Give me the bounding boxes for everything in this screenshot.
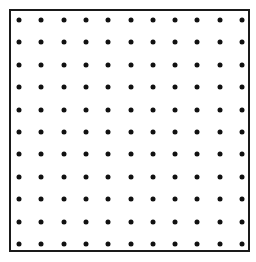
- grid-dot: [195, 18, 200, 23]
- grid-dot: [217, 62, 222, 67]
- grid-dot: [240, 174, 245, 179]
- grid-dot: [150, 107, 155, 112]
- grid-dot: [83, 174, 88, 179]
- grid-dot: [173, 242, 178, 247]
- grid-dot: [61, 197, 66, 202]
- grid-dot: [195, 219, 200, 224]
- grid-dot: [150, 62, 155, 67]
- grid-dot: [128, 174, 133, 179]
- grid-dot: [17, 18, 22, 23]
- grid-dot: [106, 40, 111, 45]
- grid-dot: [217, 130, 222, 135]
- grid-dot: [150, 18, 155, 23]
- grid-dot: [195, 85, 200, 90]
- grid-dot: [195, 130, 200, 135]
- grid-dot: [17, 62, 22, 67]
- grid-dot: [195, 174, 200, 179]
- grid-dot: [39, 40, 44, 45]
- grid-dot: [17, 219, 22, 224]
- grid-dot: [128, 18, 133, 23]
- grid-dot: [17, 174, 22, 179]
- grid-dot: [106, 107, 111, 112]
- grid-dot: [195, 242, 200, 247]
- grid-dot: [150, 197, 155, 202]
- grid-dot: [39, 18, 44, 23]
- grid-dot: [195, 40, 200, 45]
- grid-dot: [39, 219, 44, 224]
- grid-dot: [39, 62, 44, 67]
- grid-dot: [217, 40, 222, 45]
- grid-dot: [17, 107, 22, 112]
- grid-dot: [150, 219, 155, 224]
- grid-dot: [128, 62, 133, 67]
- grid-dot: [83, 62, 88, 67]
- grid-dot: [217, 152, 222, 157]
- grid-dot: [106, 197, 111, 202]
- grid-dot: [106, 62, 111, 67]
- grid-dot: [150, 85, 155, 90]
- grid-dot: [240, 62, 245, 67]
- grid-dot: [217, 107, 222, 112]
- grid-dot: [39, 130, 44, 135]
- grid-dot: [240, 242, 245, 247]
- grid-dot: [240, 130, 245, 135]
- grid-dot: [83, 130, 88, 135]
- grid-dot: [195, 197, 200, 202]
- grid-dot: [39, 197, 44, 202]
- grid-dot: [83, 85, 88, 90]
- grid-dot: [150, 130, 155, 135]
- grid-dot: [83, 219, 88, 224]
- grid-dot: [17, 40, 22, 45]
- grid-dot: [240, 85, 245, 90]
- grid-dot: [106, 242, 111, 247]
- grid-dot: [61, 219, 66, 224]
- grid-dot: [217, 219, 222, 224]
- grid-dot: [217, 174, 222, 179]
- grid-dot: [128, 40, 133, 45]
- grid-dot: [61, 40, 66, 45]
- grid-dot: [173, 107, 178, 112]
- grid-dot: [173, 130, 178, 135]
- grid-dot: [39, 152, 44, 157]
- grid-dot: [195, 107, 200, 112]
- grid-dot: [61, 18, 66, 23]
- grid-dot: [240, 197, 245, 202]
- grid-dot: [240, 40, 245, 45]
- grid-dot: [173, 197, 178, 202]
- grid-dot: [173, 174, 178, 179]
- grid-dot: [240, 152, 245, 157]
- grid-dot: [150, 152, 155, 157]
- grid-dot: [150, 174, 155, 179]
- grid-dot: [61, 130, 66, 135]
- grid-dot: [61, 62, 66, 67]
- grid-dot: [173, 85, 178, 90]
- grid-dot: [106, 85, 111, 90]
- grid-dot: [17, 152, 22, 157]
- grid-dot: [173, 18, 178, 23]
- grid-dot: [39, 174, 44, 179]
- grid-dot: [106, 152, 111, 157]
- grid-dot: [106, 130, 111, 135]
- grid-dot: [39, 242, 44, 247]
- grid-dot: [17, 85, 22, 90]
- grid-dot: [61, 242, 66, 247]
- grid-dot: [128, 197, 133, 202]
- grid-dot: [61, 85, 66, 90]
- grid-dot: [106, 219, 111, 224]
- grid-dot: [240, 18, 245, 23]
- grid-dot: [61, 107, 66, 112]
- grid-dot: [17, 242, 22, 247]
- grid-dot: [128, 130, 133, 135]
- grid-dot: [128, 85, 133, 90]
- grid-dot: [39, 107, 44, 112]
- grid-dot: [150, 242, 155, 247]
- grid-dot: [128, 152, 133, 157]
- grid-dot: [106, 174, 111, 179]
- grid-dot: [128, 107, 133, 112]
- grid-dot: [83, 197, 88, 202]
- grid-dot: [217, 18, 222, 23]
- grid-dot: [61, 174, 66, 179]
- grid-dot: [83, 242, 88, 247]
- grid-dot: [150, 40, 155, 45]
- grid-dot: [173, 219, 178, 224]
